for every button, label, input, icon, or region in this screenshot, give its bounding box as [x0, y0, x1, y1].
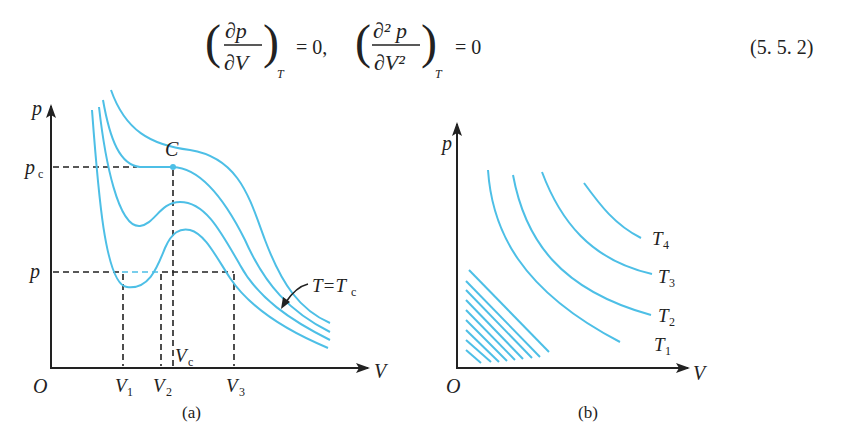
x-axis-label-b: V [693, 362, 708, 384]
caption-b: (b) [578, 403, 598, 422]
t2-subscript: 2 [669, 315, 675, 329]
t3-subscript: 3 [669, 276, 675, 290]
t4-subscript: 4 [663, 238, 669, 252]
isotherm-t3 [542, 172, 652, 274]
isotherm-t4 [584, 183, 641, 238]
isotherm-t2 [513, 175, 651, 315]
isotherm-t1 [488, 170, 620, 342]
origin-label-b: O [446, 375, 460, 397]
t1-subscript: 1 [665, 344, 671, 358]
hatched-region [466, 270, 549, 363]
figure-b-ideal-gas-isotherms: p V O T 1 T 2 T 3 T 4 (b) [0, 0, 846, 424]
y-axis-label-b: p [440, 132, 452, 155]
